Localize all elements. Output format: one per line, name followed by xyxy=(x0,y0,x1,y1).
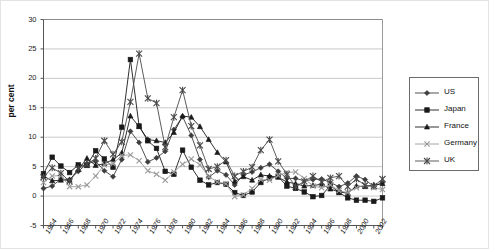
legend-label: US xyxy=(444,87,455,96)
y-tick-label: -5 xyxy=(15,221,37,230)
cross-marker-icon xyxy=(414,136,440,148)
series-france xyxy=(41,113,385,195)
legend-item-france[interactable]: France xyxy=(414,118,469,132)
legend-label: Japan xyxy=(444,104,466,113)
legend-label: Germany xyxy=(444,138,477,147)
y-tick-label: 20 xyxy=(15,73,37,82)
legend-item-japan[interactable]: Japan xyxy=(414,101,466,115)
y-tick-label: 25 xyxy=(15,44,37,53)
legend-label: UK xyxy=(444,155,455,164)
y-tick-label: 0 xyxy=(15,191,37,200)
plot-frame xyxy=(44,20,383,226)
square-marker-icon xyxy=(414,102,440,114)
chart-container: per cent 302520151050-5 1964196619681970… xyxy=(0,0,489,249)
legend-item-germany[interactable]: Germany xyxy=(414,135,477,149)
series-germany xyxy=(41,152,385,199)
series-uk xyxy=(41,50,386,190)
y-tick-label: 15 xyxy=(15,103,37,112)
legend-item-us[interactable]: US xyxy=(414,84,455,98)
diamond-marker-icon xyxy=(414,85,440,97)
y-tick-label: 5 xyxy=(15,162,37,171)
gridlines xyxy=(44,20,383,226)
y-tick-label: 30 xyxy=(15,15,37,24)
star-marker-icon xyxy=(414,153,440,165)
y-tick-label: 10 xyxy=(15,132,37,141)
series-japan xyxy=(41,57,385,203)
triangle-marker-icon xyxy=(414,119,440,131)
legend-item-uk[interactable]: UK xyxy=(414,152,455,166)
chart-legend: USJapanFranceGermanyUK xyxy=(409,77,479,171)
legend-label: France xyxy=(444,121,469,130)
